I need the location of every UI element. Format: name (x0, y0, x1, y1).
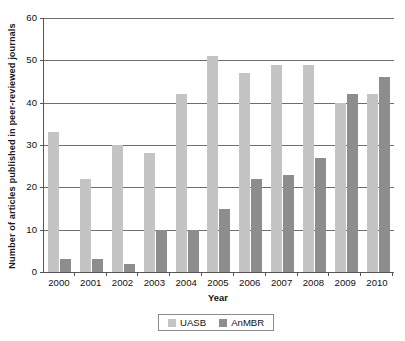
y-tick-label: 30 (2, 139, 42, 150)
bar-uasb-2002 (112, 145, 123, 272)
bar-uasb-2001 (80, 179, 91, 272)
bar-group (362, 18, 394, 272)
bar-groups (44, 18, 394, 272)
bar-anmbr-2009 (347, 94, 358, 272)
x-axis-title: Year (43, 292, 393, 303)
y-tick-label: 20 (2, 181, 42, 192)
bar-group (330, 18, 362, 272)
bar-uasb-2006 (239, 73, 250, 272)
bar-anmbr-2001 (92, 259, 103, 272)
x-tick-label-2010: 2010 (361, 277, 393, 288)
legend-label: UASB (180, 317, 206, 328)
x-axis-tick-labels: 2000200120022003200420052006200720082009… (43, 277, 393, 288)
bar-uasb-2009 (335, 103, 346, 272)
x-tick-label-2005: 2005 (202, 277, 234, 288)
bar-anmbr-2008 (315, 158, 326, 272)
bar-uasb-2007 (271, 65, 282, 272)
bar-group (299, 18, 331, 272)
bar-uasb-2010 (367, 94, 378, 272)
x-tick-label-2003: 2003 (138, 277, 170, 288)
bar-group (44, 18, 76, 272)
y-tick-label: 50 (2, 54, 42, 65)
bar-anmbr-2005 (219, 209, 230, 273)
x-tick-label-2004: 2004 (170, 277, 202, 288)
bar-uasb-2003 (144, 153, 155, 272)
bar-anmbr-2003 (156, 230, 167, 272)
x-tick-label-2001: 2001 (75, 277, 107, 288)
x-tick-label-2006: 2006 (234, 277, 266, 288)
bar-anmbr-2007 (283, 175, 294, 272)
y-tick-label: 10 (2, 224, 42, 235)
x-tick-label-2002: 2002 (107, 277, 139, 288)
bar-uasb-2008 (303, 65, 314, 272)
legend-label: AnMBR (231, 317, 264, 328)
bar-uasb-2000 (48, 132, 59, 272)
legend-item-uasb[interactable]: UASB (168, 317, 206, 328)
y-tick-label: 40 (2, 97, 42, 108)
legend-swatch-icon (168, 319, 176, 327)
plot-area: 0102030405060 (43, 18, 393, 272)
x-tick-label-2008: 2008 (298, 277, 330, 288)
bar-group (139, 18, 171, 272)
bar-anmbr-2002 (124, 264, 135, 272)
bar-group (267, 18, 299, 272)
legend-item-anmbr[interactable]: AnMBR (219, 317, 264, 328)
bar-group (76, 18, 108, 272)
legend-swatch-icon (219, 319, 227, 327)
bar-uasb-2005 (207, 56, 218, 272)
x-tick-label-2009: 2009 (329, 277, 361, 288)
bar-group (108, 18, 140, 272)
bar-anmbr-2006 (251, 179, 262, 272)
bar-anmbr-2004 (188, 230, 199, 272)
y-tick-label: 60 (2, 12, 42, 23)
y-tick-label: 0 (2, 266, 42, 277)
x-tick-label-2007: 2007 (266, 277, 298, 288)
bar-uasb-2004 (176, 94, 187, 272)
bar-anmbr-2000 (60, 259, 71, 272)
bar-group (171, 18, 203, 272)
bar-anmbr-2010 (379, 77, 390, 272)
chart-legend: UASBAnMBR (158, 314, 274, 331)
bar-chart: Number of articles published in peer-rev… (0, 0, 405, 341)
x-tick-label-2000: 2000 (43, 277, 75, 288)
bar-group (203, 18, 235, 272)
bar-group (235, 18, 267, 272)
